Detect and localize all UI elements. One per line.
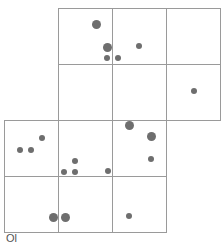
small-dot	[72, 169, 78, 175]
grid-cell	[112, 64, 167, 121]
small-dot	[191, 88, 197, 94]
large-dot	[147, 132, 156, 141]
grid-cell	[58, 64, 113, 121]
small-dot	[17, 147, 23, 153]
grid-cell	[112, 120, 167, 177]
grid-cell	[58, 176, 113, 233]
large-dot	[92, 20, 101, 29]
small-dot	[39, 135, 45, 141]
large-dot	[49, 213, 58, 222]
large-dot	[103, 43, 112, 52]
grid-cell	[112, 176, 167, 233]
caption-text: Ol	[6, 232, 17, 244]
small-dot	[115, 55, 121, 61]
small-dot	[104, 55, 110, 61]
small-dot	[136, 43, 142, 49]
small-dot	[148, 156, 154, 162]
large-dot	[125, 121, 134, 130]
small-dot	[105, 168, 111, 174]
grid-cell	[4, 176, 59, 233]
small-dot	[28, 147, 34, 153]
small-dot	[61, 169, 67, 175]
large-dot	[61, 213, 70, 222]
small-dot	[126, 213, 132, 219]
grid-cell	[166, 8, 221, 65]
small-dot	[72, 158, 78, 164]
